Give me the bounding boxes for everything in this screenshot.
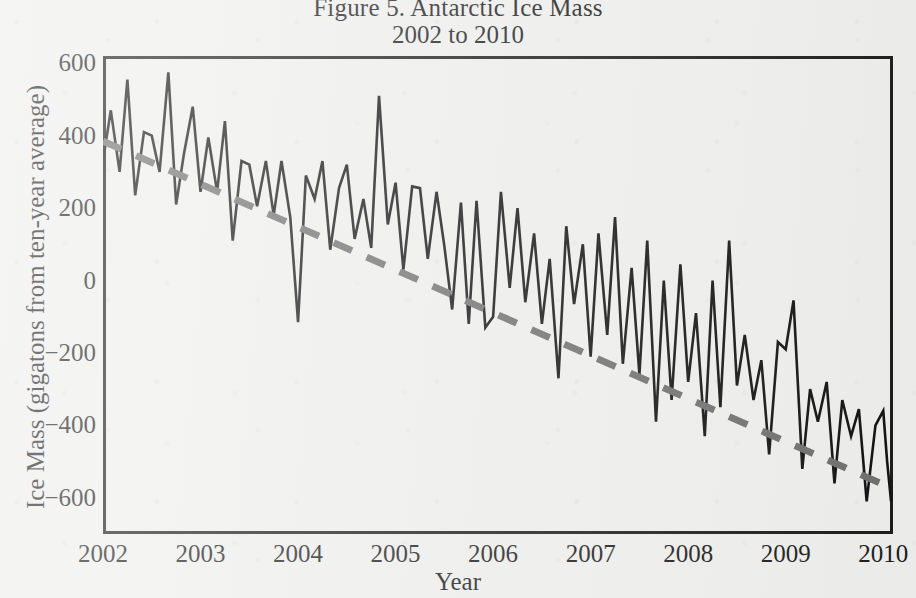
x-tick-label: 2009 <box>741 540 831 568</box>
x-tick-label: 2005 <box>351 540 441 568</box>
y-tick-label: 400 <box>4 123 96 148</box>
x-tick-label: 2003 <box>156 540 246 568</box>
y-tick-label: 200 <box>4 195 96 220</box>
x-tick-label: 2008 <box>643 540 733 568</box>
figure-title: Figure 5. Antarctic Ice Mass <box>0 0 916 22</box>
x-tick-label: 2002 <box>58 540 148 568</box>
x-axis-title: Year <box>0 568 916 596</box>
x-tick-label: 2007 <box>546 540 636 568</box>
x-tick-label: 2004 <box>253 540 343 568</box>
trend-line-dashed <box>103 141 893 489</box>
x-tick-label: 2010 <box>838 540 916 568</box>
y-axis-tick-labels: 6004002000−200−400−600 <box>0 0 96 598</box>
y-tick-label: −400 <box>4 412 96 437</box>
y-tick-label: 0 <box>4 268 96 293</box>
figure-subtitle: 2002 to 2010 <box>0 21 916 49</box>
ice-mass-line-chart <box>103 56 893 534</box>
x-tick-label: 2006 <box>448 540 538 568</box>
y-tick-label: −600 <box>4 485 96 510</box>
y-tick-label: 600 <box>4 50 96 75</box>
y-tick-label: −200 <box>4 340 96 365</box>
